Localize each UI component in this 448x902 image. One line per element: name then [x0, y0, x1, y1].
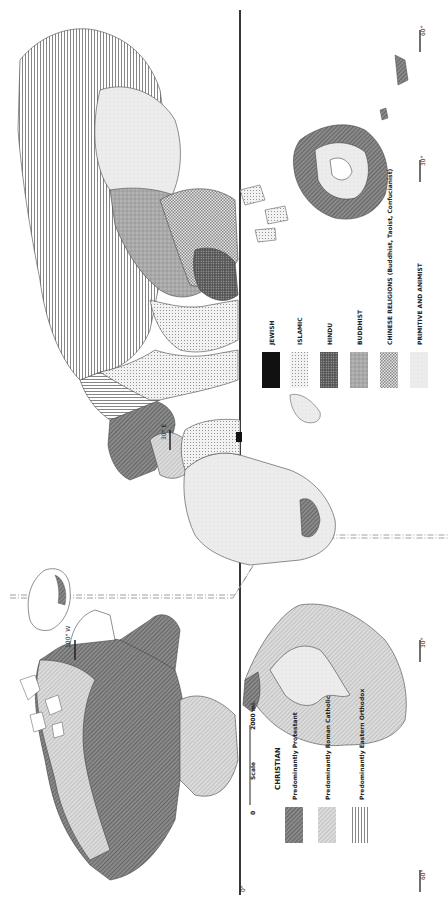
madagascar [290, 394, 320, 423]
svg-text:60°: 60° [419, 25, 426, 36]
scale-bar: 0 Scale 2000 mi. [249, 701, 256, 815]
legend-swatch-hindu [320, 352, 338, 388]
legend-swatch-primitive [410, 352, 428, 388]
svg-text:30°: 30° [419, 155, 426, 166]
africa [181, 419, 335, 565]
svg-text:Predominantly Roman Catholic: Predominantly Roman Catholic [324, 695, 332, 800]
svg-text:HINDU: HINDU [326, 323, 333, 345]
jewish-region [236, 432, 242, 442]
svg-text:JEWISH: JEWISH [268, 320, 276, 346]
svg-text:30° E: 30° E [160, 423, 167, 440]
asia [18, 29, 238, 400]
svg-text:Predominantly Eastern Orthodox: Predominantly Eastern Orthodox [358, 689, 366, 800]
legend-swatch-protestant [285, 807, 303, 843]
svg-text:Predominantly Protestant: Predominantly Protestant [291, 712, 299, 800]
svg-text:2000 mi.: 2000 mi. [249, 701, 256, 730]
legend-swatch-orthodox [352, 807, 370, 843]
new-zealand [395, 55, 408, 85]
svg-text:PRIMITIVE AND ANIMIST: PRIMITIVE AND ANIMIST [416, 262, 423, 345]
svg-text:30°: 30° [419, 637, 426, 648]
svg-text:100° W: 100° W [64, 626, 71, 648]
north-america [35, 610, 238, 880]
svg-text:ISLAMIC: ISLAMIC [296, 317, 303, 345]
svg-text:BUDDHIST: BUDDHIST [356, 309, 363, 345]
legend-swatch-islamic [290, 352, 308, 388]
australia [293, 125, 387, 219]
legend-swatch-buddhist [350, 352, 368, 388]
legend-swatch-jewish [262, 352, 280, 388]
svg-text:CHRISTIAN: CHRISTIAN [274, 747, 282, 790]
svg-text:0°: 0° [239, 885, 246, 892]
svg-text:CHINESE RELIGIONS (Buddhist, T: CHINESE RELIGIONS (Buddhist, Taoist, Con… [386, 168, 393, 345]
svg-text:60°: 60° [419, 869, 426, 880]
svg-text:Scale: Scale [249, 762, 256, 780]
svg-text:0: 0 [249, 811, 256, 815]
world-religions-map: 100° W 30° E 60° 30° 0° 30° 60° 0 Scale … [0, 0, 448, 902]
legend-swatch-chinese [380, 352, 398, 388]
legend-swatch-catholic [318, 807, 336, 843]
